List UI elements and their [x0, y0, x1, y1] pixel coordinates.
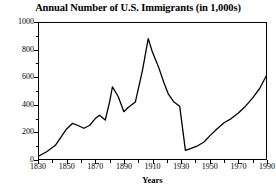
axis-tick-mark [36, 63, 39, 64]
y-tick-label: 1000 [2, 18, 34, 26]
axis-tick-mark [95, 160, 96, 164]
x-tick-label: 1990 [250, 163, 276, 171]
axis-tick-mark [52, 160, 53, 163]
axis-tick-mark [81, 160, 82, 163]
axis-tick-mark [34, 105, 38, 106]
axis-tick-mark [238, 160, 239, 164]
chart-container: Annual Number of U.S. Immigrants (in 1,0… [0, 0, 276, 191]
axis-tick-mark [38, 160, 39, 164]
axis-tick-mark [167, 160, 168, 163]
y-tick-label: 600 [2, 73, 34, 81]
axis-tick-mark [36, 119, 39, 120]
y-tick-label: 400 [2, 101, 34, 109]
axis-tick-mark [138, 160, 139, 163]
axis-tick-mark [195, 160, 196, 163]
axis-tick-mark [110, 160, 111, 163]
axis-tick-mark [34, 160, 38, 161]
axis-tick-mark [36, 146, 39, 147]
axis-tick-mark [34, 77, 38, 78]
axis-tick-mark [181, 160, 182, 164]
axis-tick-mark [67, 160, 68, 164]
data-series-line [38, 22, 267, 160]
axis-tick-mark [34, 50, 38, 51]
axis-tick-mark [253, 160, 254, 163]
axis-tick-mark [210, 160, 211, 164]
axis-tick-mark [34, 132, 38, 133]
y-tick-label: 800 [2, 46, 34, 54]
chart-title: Annual Number of U.S. Immigrants (in 1,0… [0, 2, 276, 13]
x-axis-title: Years [38, 175, 267, 185]
axis-tick-mark [267, 160, 268, 164]
axis-tick-mark [153, 160, 154, 164]
y-tick-label: 200 [2, 128, 34, 136]
axis-tick-mark [224, 160, 225, 163]
axis-tick-mark [36, 36, 39, 37]
axis-tick-mark [124, 160, 125, 164]
axis-tick-mark [34, 22, 38, 23]
axis-tick-mark [36, 91, 39, 92]
